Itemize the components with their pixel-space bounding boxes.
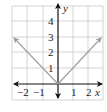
x-tick-1: 1 (71, 86, 77, 98)
y-tick-1: 1 (48, 62, 54, 74)
x-tick-neg1: −1 (33, 86, 45, 98)
x-axis-label: x (94, 86, 100, 98)
curve-left-branch (14, 38, 58, 84)
y-axis-label: y (62, 2, 68, 14)
y-tick-2: 2 (48, 46, 54, 58)
y-tick-4: 4 (48, 15, 54, 27)
curve-right-branch (58, 38, 101, 84)
y-tick-3: 3 (48, 31, 54, 43)
graph: y x 4 3 2 1 −2 −1 1 2 (0, 0, 107, 112)
x-tick-neg2: −2 (17, 86, 29, 98)
x-tick-2: 2 (86, 86, 92, 98)
